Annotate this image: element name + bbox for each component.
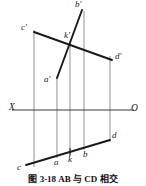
axis-label-x: X bbox=[9, 103, 15, 113]
point-label-b: b bbox=[83, 150, 88, 159]
geometry-figure: X O b' c' k' d' a' c a k b d 图 3-18 AB 与… bbox=[0, 0, 146, 186]
axis-label-o: O bbox=[131, 104, 138, 114]
point-label-c-prime: c' bbox=[21, 23, 27, 32]
frontal-projection-group bbox=[34, 10, 112, 78]
point-label-d-prime: d' bbox=[115, 52, 121, 61]
point-label-d: d bbox=[112, 131, 117, 140]
figure-caption: 图 3-18 AB 与 CD 相交 bbox=[0, 174, 146, 185]
point-label-a-prime: a' bbox=[44, 75, 50, 84]
point-label-k-prime: k' bbox=[64, 31, 70, 40]
point-label-a: a bbox=[54, 158, 59, 167]
point-label-c: c bbox=[17, 163, 21, 172]
point-label-b-prime: b' bbox=[75, 0, 81, 9]
point-label-k: k bbox=[68, 155, 72, 164]
